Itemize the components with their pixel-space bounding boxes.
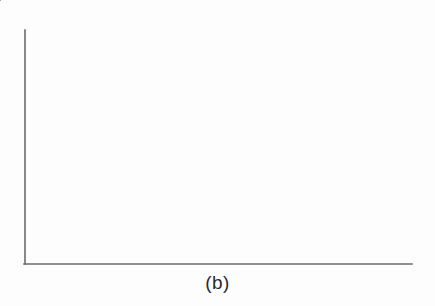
figure-caption: (b) (0, 272, 435, 294)
figure-panel-b: (b) (0, 0, 435, 306)
axes-group (0, 0, 412, 264)
oscillation-plot (0, 0, 435, 306)
